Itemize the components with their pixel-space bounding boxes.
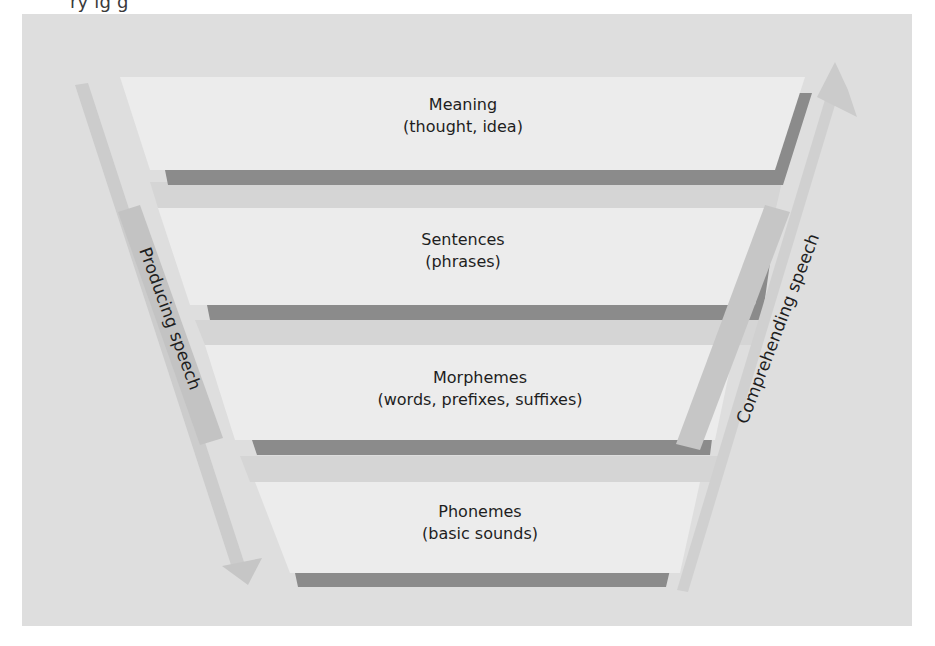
level-title: Phonemes: [438, 502, 521, 521]
level-title: Morphemes: [433, 368, 527, 387]
level-phonemes: Phonemes (basic sounds): [255, 482, 700, 587]
level-title: Meaning: [429, 95, 497, 114]
level-subtitle: (phrases): [425, 252, 501, 271]
level-meaning: Meaning (thought, idea): [120, 77, 812, 185]
speech-hierarchy-diagram: Meaning (thought, idea) Sentences (phras…: [0, 0, 935, 646]
level-morphemes: Morphemes (words, prefixes, suffixes): [205, 345, 735, 455]
level-subtitle: (thought, idea): [403, 117, 523, 136]
level-subtitle: (basic sounds): [422, 524, 538, 543]
level-title: Sentences: [421, 230, 504, 249]
level-subtitle: (words, prefixes, suffixes): [377, 390, 582, 409]
level-sentences: Sentences (phrases): [158, 208, 775, 320]
